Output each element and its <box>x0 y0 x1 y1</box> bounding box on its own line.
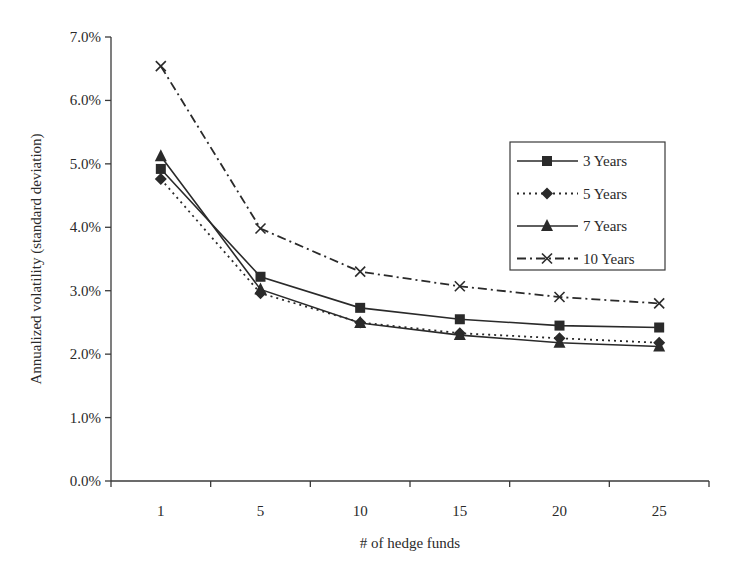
y-tick-label: 2.0% <box>70 346 101 362</box>
legend-label: 5 Years <box>583 186 627 202</box>
square-marker-icon <box>654 323 664 333</box>
legend: 3 Years5 Years7 Years10 Years <box>510 142 665 270</box>
x-tick-label: 5 <box>257 503 265 519</box>
diamond-marker-icon <box>155 173 167 185</box>
square-marker-icon <box>542 156 552 166</box>
y-axis-title: Annualized volatility (standard deviatio… <box>28 133 45 384</box>
x-axis: 1510152025 <box>111 481 709 519</box>
square-marker-icon <box>355 303 365 313</box>
x-tick-label: 10 <box>353 503 368 519</box>
x-tick-label: 25 <box>652 503 667 519</box>
y-axis: 0.0%1.0%2.0%3.0%4.0%5.0%6.0%7.0% <box>70 29 111 489</box>
square-marker-icon <box>156 164 166 174</box>
legend-label: 10 Years <box>583 251 635 267</box>
x-tick-label: 1 <box>157 503 165 519</box>
y-tick-label: 0.0% <box>70 473 101 489</box>
x-marker-icon <box>156 61 166 71</box>
y-tick-label: 7.0% <box>70 29 101 45</box>
x-axis-title: # of hedge funds <box>360 535 461 551</box>
legend-label: 3 Years <box>583 153 627 169</box>
legend-label: 7 Years <box>583 218 627 234</box>
x-tick-label: 20 <box>552 503 567 519</box>
y-tick-label: 6.0% <box>70 92 101 108</box>
y-tick-label: 5.0% <box>70 156 101 172</box>
x-marker-icon <box>355 267 365 277</box>
y-tick-label: 1.0% <box>70 410 101 426</box>
square-marker-icon <box>455 314 465 324</box>
x-tick-label: 15 <box>452 503 467 519</box>
x-marker-icon <box>256 224 266 234</box>
line-chart: 0.0%1.0%2.0%3.0%4.0%5.0%6.0%7.0% 1510152… <box>0 0 731 582</box>
y-tick-label: 3.0% <box>70 283 101 299</box>
y-tick-label: 4.0% <box>70 219 101 235</box>
square-marker-icon <box>256 272 266 282</box>
square-marker-icon <box>555 321 565 331</box>
triangle-marker-icon <box>155 149 167 161</box>
